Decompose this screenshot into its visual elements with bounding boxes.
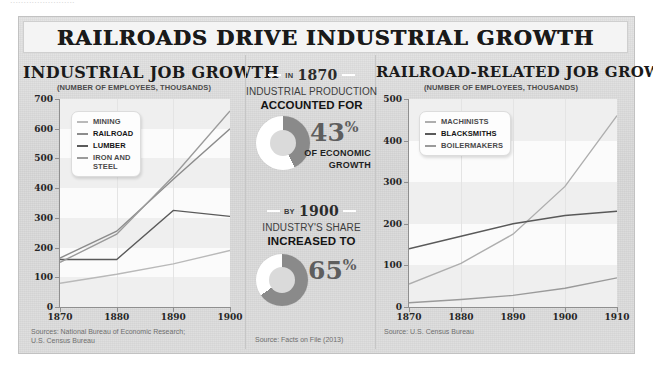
list-item: BLACKSMITHS: [425, 129, 503, 138]
x-axis-tick-mark: [513, 308, 514, 312]
legend-label-boilermakers: BOILERMAKERS: [441, 141, 503, 150]
y-axis-tick-label: 400: [34, 183, 53, 193]
x-axis-tick-mark: [230, 308, 231, 312]
donut-hole-1900: [269, 267, 295, 293]
series-line-lumber: [60, 210, 230, 259]
axis-line-x: [59, 307, 231, 308]
rule-dash-left: [267, 210, 280, 212]
left-panel-title: INDUSTRIAL JOB GROWTH: [23, 63, 245, 82]
series-line-blacksmiths: [409, 211, 617, 249]
y-axis-tick-mark: [404, 182, 408, 183]
legend-label-railroad: RAILROAD: [93, 129, 133, 138]
y-axis-tick-mark: [55, 277, 59, 278]
x-axis-tick-label: 1900: [552, 312, 577, 322]
x-axis-tick-label: 1880: [448, 312, 473, 322]
poster-columns: INDUSTRIAL JOB GROWTH (NUMBER OF EMPLOYE…: [23, 55, 628, 349]
clipped-page-text-strip: ........................: [0, 0, 653, 16]
y-axis-tick-label: 100: [34, 272, 53, 282]
y-axis-tick-label: 400: [383, 136, 402, 146]
x-axis-tick-mark: [117, 308, 118, 312]
stat-line1-1870: INDUSTRIAL PRODUCTION: [246, 86, 377, 97]
stat-line2-1870: ACCOUNTED FOR: [246, 99, 377, 111]
list-item: IRON AND STEEL: [77, 153, 133, 171]
x-axis-tick-label: 1880: [104, 312, 129, 322]
y-axis-tick-label: 200: [34, 243, 53, 253]
stat-block-1870: IN 1870 INDUSTRIAL PRODUCTION ACCOUNTED …: [246, 67, 377, 176]
x-axis-tick-label: 1890: [500, 312, 525, 322]
legend-swatch-iron-and-steel: [77, 157, 88, 159]
y-axis-tick-mark: [404, 307, 408, 308]
donut-chart-1870: 43% OF ECONOMIC GROWTH: [246, 114, 377, 176]
stat-year-row-1900: BY 1900: [246, 203, 377, 219]
legend-swatch-railroad: [77, 133, 88, 135]
donut-hole-1870: [270, 130, 296, 156]
stat-percent-1870: 43%: [310, 118, 359, 147]
legend-swatch-lumber: [77, 145, 88, 147]
list-item: BOILERMAKERS: [425, 141, 503, 150]
legend-label-iron-and-steel: IRON AND STEEL: [93, 153, 131, 171]
y-axis-tick-label: 600: [34, 124, 53, 134]
left-panel-subtitle: (NUMBER OF EMPLOYEES, THOUSANDS): [23, 83, 245, 92]
list-item: MACHINISTS: [425, 117, 503, 126]
y-axis-tick-label: 500: [34, 153, 53, 163]
stat-year-prefix-1900: BY: [284, 207, 295, 216]
source-right: Source: U.S. Census Bureau: [384, 327, 614, 336]
y-axis-tick-label: 0: [396, 302, 402, 312]
legend-swatch-blacksmiths: [425, 133, 436, 135]
y-axis-tick-mark: [404, 141, 408, 142]
poster-banner: RAILROADS DRIVE INDUSTRIAL GROWTH: [23, 21, 628, 53]
stat-tail-1870: OF ECONOMIC GROWTH: [297, 147, 371, 171]
y-axis-tick-mark: [55, 158, 59, 159]
infographic-page: ........................ RAILROADS DRIVE…: [0, 0, 653, 372]
infographic-poster: RAILROADS DRIVE INDUSTRIAL GROWTH INDUST…: [18, 16, 635, 354]
x-axis-tick-mark: [60, 308, 61, 312]
legend-right[interactable]: MACHINISTS BLACKSMITHS BOILERMAKERS: [419, 111, 511, 156]
legend-label-mining: MINING: [93, 117, 121, 126]
x-axis-tick-label: 1870: [47, 312, 72, 322]
y-axis-tick-label: 100: [383, 260, 402, 270]
panel-industrial-share-stats: IN 1870 INDUSTRIAL PRODUCTION ACCOUNTED …: [245, 55, 376, 349]
x-axis-tick-mark: [173, 308, 174, 312]
legend-swatch-mining: [77, 121, 88, 123]
y-axis-tick-label: 700: [34, 94, 53, 104]
list-item: RAILROAD: [77, 129, 133, 138]
y-axis-tick-mark: [404, 265, 408, 266]
source-left: Sources: National Bureau of Economic Res…: [31, 327, 237, 345]
series-line-boilermakers: [409, 278, 617, 303]
panel-railroad-related-job-growth: RAILROAD-RELATED JOB GROWTH (NUMBER OF E…: [376, 55, 626, 349]
x-axis-tick-label: 1890: [161, 312, 186, 322]
y-axis-tick-mark: [55, 248, 59, 249]
x-axis-tick-label: 1900: [217, 312, 242, 322]
source-mid: Source: Facts on File (2013): [255, 335, 375, 344]
stat-year-row-1870: IN 1870: [246, 67, 377, 83]
panel-industrial-job-growth: INDUSTRIAL JOB GROWTH (NUMBER OF EMPLOYE…: [23, 55, 245, 349]
list-item: LUMBER: [77, 141, 133, 150]
stat-year-prefix-1870: IN: [285, 71, 293, 80]
legend-label-machinists: MACHINISTS: [441, 117, 489, 126]
legend-swatch-boilermakers: [425, 145, 436, 147]
donut-chart-1900: 65%: [246, 252, 377, 314]
poster-title: RAILROADS DRIVE INDUSTRIAL GROWTH: [57, 25, 594, 50]
legend-left[interactable]: MINING RAILROAD LUMBER IRON AND STEEL: [71, 111, 141, 177]
y-axis-tick-label: 0: [47, 302, 53, 312]
axis-line-y: [408, 99, 409, 308]
stat-year-1870: 1870: [297, 67, 337, 83]
y-axis-tick-mark: [55, 307, 59, 308]
right-panel-title: RAILROAD-RELATED JOB GROWTH: [376, 63, 626, 81]
legend-swatch-machinists: [425, 121, 436, 123]
stat-percent-1900: 65%: [308, 256, 357, 285]
x-axis-tick-label: 1870: [396, 312, 421, 322]
y-axis-tick-mark: [55, 99, 59, 100]
x-axis-tick-mark: [617, 308, 618, 312]
y-axis-tick-label: 300: [34, 213, 53, 223]
right-panel-subtitle: (NUMBER OF EMPLOYEES, THOUSANDS): [376, 83, 626, 92]
y-axis-tick-mark: [404, 99, 408, 100]
y-axis-tick-mark: [55, 218, 59, 219]
y-axis-tick-mark: [55, 129, 59, 130]
legend-label-lumber: LUMBER: [93, 141, 126, 150]
y-axis-tick-label: 300: [383, 177, 402, 187]
x-axis-tick-mark: [565, 308, 566, 312]
stat-year-1900: 1900: [299, 203, 339, 219]
list-item: MINING: [77, 117, 133, 126]
x-axis-tick-mark: [461, 308, 462, 312]
